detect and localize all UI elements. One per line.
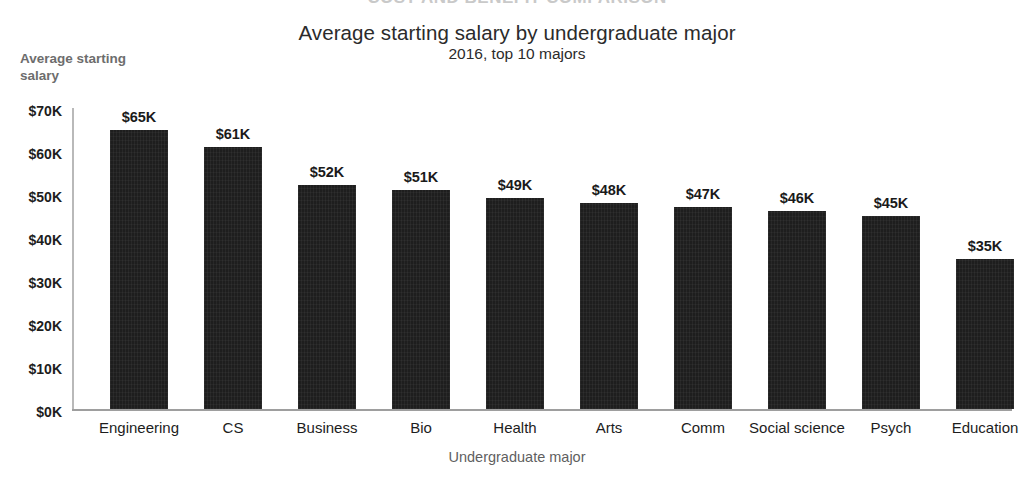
x-category-label: CS — [223, 419, 244, 436]
x-axis-line — [72, 409, 1012, 411]
bar-value-label: $48K — [592, 182, 627, 198]
page-header-remnant: COST AND BENEFIT COMPARISON — [0, 0, 1034, 9]
x-category-label: Comm — [681, 419, 725, 436]
bar-rect[interactable] — [298, 185, 356, 409]
x-axis-category-labels: EngineeringCSBusinessBioHealthArtsCommSo… — [72, 419, 1012, 443]
chart-title: Average starting salary by undergraduate… — [0, 21, 1034, 45]
page-header-text: COST AND BENEFIT COMPARISON — [0, 0, 1034, 8]
x-category-label: Arts — [596, 419, 623, 436]
x-category-label: Engineering — [99, 419, 179, 436]
bar-value-label: $47K — [686, 186, 721, 202]
x-category-label: Psych — [871, 419, 912, 436]
bar-group[interactable]: $49K — [486, 172, 544, 409]
y-tick-label: $20K — [0, 318, 62, 334]
plot-area: $65K$61K$52K$51K$49K$48K$47K$46K$45K$35K — [72, 105, 1012, 410]
y-axis-line — [72, 108, 74, 409]
bar-value-label: $65K — [122, 109, 157, 125]
chart-subtitle: 2016, top 10 majors — [0, 45, 1034, 63]
x-axis-title: Undergraduate major — [0, 449, 1034, 465]
bar-value-label: $49K — [498, 177, 533, 193]
x-category-label: Business — [297, 419, 358, 436]
bar-value-label: $46K — [780, 190, 815, 206]
bar-group[interactable]: $45K — [862, 190, 920, 410]
y-tick-label: $40K — [0, 232, 62, 248]
y-tick-label: $30K — [0, 275, 62, 291]
bar-group[interactable]: $52K — [298, 159, 356, 409]
bar-value-label: $51K — [404, 169, 439, 185]
bar-group[interactable]: $48K — [580, 177, 638, 409]
y-tick-label: $10K — [0, 361, 62, 377]
y-axis-tick-labels: $0K$10K$20K$30K$40K$50K$60K$70K — [0, 105, 66, 415]
bar-rect[interactable] — [862, 216, 920, 410]
bar-group[interactable]: $47K — [674, 181, 732, 409]
y-tick-label: $70K — [0, 103, 62, 119]
bar-rect[interactable] — [956, 259, 1014, 410]
bar-value-label: $52K — [310, 164, 345, 180]
bar-rect[interactable] — [110, 130, 168, 410]
y-tick-label: $0K — [0, 404, 62, 420]
bar-rect[interactable] — [580, 203, 638, 409]
bar-group[interactable]: $65K — [110, 104, 168, 410]
x-category-label: Education — [952, 419, 1019, 436]
bar-rect[interactable] — [486, 198, 544, 409]
bar-group[interactable]: $51K — [392, 164, 450, 409]
bar-value-label: $35K — [968, 238, 1003, 254]
bar-rect[interactable] — [674, 207, 732, 409]
bar-group[interactable]: $61K — [204, 121, 262, 409]
bar-rect[interactable] — [392, 190, 450, 409]
bar-rect[interactable] — [768, 211, 826, 409]
bar-rect[interactable] — [204, 147, 262, 409]
x-category-label: Health — [493, 419, 536, 436]
y-axis-title: Average starting salary — [20, 50, 150, 84]
x-category-label: Bio — [410, 419, 432, 436]
bar-group[interactable]: $35K — [956, 233, 1014, 410]
y-tick-label: $50K — [0, 189, 62, 205]
bar-value-label: $45K — [874, 195, 909, 211]
x-category-label: Social science — [749, 419, 845, 436]
y-tick-label: $60K — [0, 146, 62, 162]
bar-group[interactable]: $46K — [768, 185, 826, 409]
bar-value-label: $61K — [216, 126, 251, 142]
